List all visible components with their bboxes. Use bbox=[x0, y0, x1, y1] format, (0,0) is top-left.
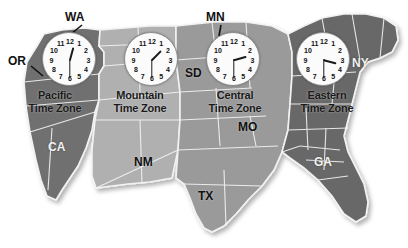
clock-numeral-5: 5 bbox=[238, 73, 248, 80]
clock-eastern: 121234567891011 bbox=[296, 32, 350, 86]
state-label-mo: MO bbox=[238, 120, 257, 134]
clock-numeral-7: 7 bbox=[56, 73, 66, 80]
clock-hour-hand bbox=[324, 59, 337, 64]
clock-central: 121234567891011 bbox=[206, 32, 260, 86]
state-label-ny: NY bbox=[352, 56, 369, 70]
clock-numeral-5: 5 bbox=[74, 73, 84, 80]
clock-numeral-11: 11 bbox=[220, 40, 230, 47]
clock-numeral-7: 7 bbox=[220, 73, 230, 80]
clock-numeral-3: 3 bbox=[248, 57, 258, 64]
state-label-nm: NM bbox=[134, 155, 153, 169]
clock-numeral-9: 9 bbox=[301, 57, 311, 64]
clock-numeral-11: 11 bbox=[310, 40, 320, 47]
state-label-ca: CA bbox=[48, 140, 65, 154]
state-label-sd: SD bbox=[185, 66, 202, 80]
clock-center-pin bbox=[323, 59, 325, 61]
clock-numeral-10: 10 bbox=[213, 47, 223, 54]
time-zone-map-figure: Pacific Time Zone Mountain Time Zone Cen… bbox=[0, 0, 408, 248]
clock-numeral-2: 2 bbox=[163, 47, 173, 54]
clock-numeral-11: 11 bbox=[138, 40, 148, 47]
clock-numeral-2: 2 bbox=[335, 47, 345, 54]
clock-numeral-10: 10 bbox=[303, 47, 313, 54]
clock-numeral-7: 7 bbox=[310, 73, 320, 80]
clock-center-pin bbox=[233, 59, 235, 61]
clock-center-pin bbox=[151, 59, 153, 61]
clock-numeral-5: 5 bbox=[328, 73, 338, 80]
state-label-tx: TX bbox=[198, 189, 213, 203]
clock-numeral-2: 2 bbox=[245, 47, 255, 54]
clock-center-pin bbox=[69, 59, 71, 61]
state-label-or: OR bbox=[8, 54, 26, 68]
clock-numeral-3: 3 bbox=[166, 57, 176, 64]
clock-numeral-11: 11 bbox=[56, 40, 66, 47]
clock-numeral-8: 8 bbox=[131, 66, 141, 73]
clock-numeral-3: 3 bbox=[338, 57, 348, 64]
clock-numeral-8: 8 bbox=[49, 66, 59, 73]
state-label-wa: WA bbox=[65, 10, 84, 24]
clock-numeral-2: 2 bbox=[81, 47, 91, 54]
clock-hour-hand bbox=[234, 56, 247, 61]
state-label-ga: GA bbox=[314, 155, 332, 169]
clock-numeral-9: 9 bbox=[47, 57, 57, 64]
clock-mountain: 121234567891011 bbox=[124, 32, 178, 86]
clock-numeral-8: 8 bbox=[213, 66, 223, 73]
clock-numeral-10: 10 bbox=[131, 47, 141, 54]
clock-numeral-8: 8 bbox=[303, 66, 313, 73]
leader-line-or bbox=[31, 66, 43, 76]
clock-pacific: 121234567891011 bbox=[42, 32, 96, 86]
clock-numeral-9: 9 bbox=[211, 57, 221, 64]
state-label-mn: MN bbox=[206, 10, 225, 24]
clock-numeral-3: 3 bbox=[84, 57, 94, 64]
clock-numeral-9: 9 bbox=[129, 57, 139, 64]
clock-numeral-7: 7 bbox=[138, 73, 148, 80]
clock-numeral-5: 5 bbox=[156, 73, 166, 80]
clock-numeral-10: 10 bbox=[49, 47, 59, 54]
